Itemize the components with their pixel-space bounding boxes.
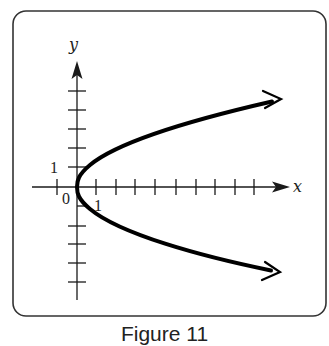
origin-label: 0	[62, 190, 70, 207]
y-axis-label: y	[68, 35, 79, 54]
x-axis-label: x	[293, 177, 302, 196]
parabola-curve	[77, 102, 272, 271]
figure-caption: Figure 11	[0, 322, 329, 346]
x-axis: x	[32, 177, 302, 196]
y-tick-label-one: 1	[50, 159, 58, 176]
y-axis: y	[68, 35, 86, 300]
